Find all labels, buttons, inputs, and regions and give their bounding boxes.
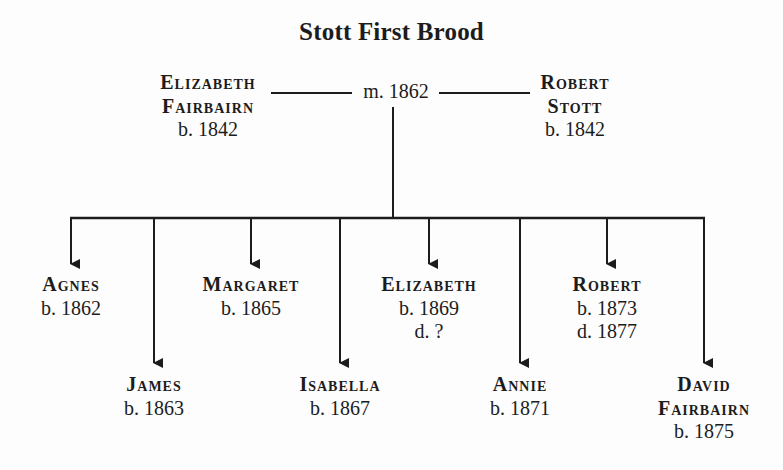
child-date: d. ? [329, 320, 529, 344]
child-node: Robertb. 1873d. 1877 [507, 273, 707, 344]
child-node: Isabellab. 1867 [240, 373, 440, 420]
child-name: Elizabeth [329, 273, 529, 297]
child-name: Annie [420, 373, 620, 397]
child-node: Margaretb. 1865 [151, 273, 351, 320]
child-date: b. 1873 [507, 297, 707, 321]
parent-birth-date: b. 1842 [475, 118, 675, 142]
child-date: b. 1871 [420, 397, 620, 421]
parent-name-line: Elizabeth [108, 71, 308, 95]
child-date: d. 1877 [507, 320, 707, 344]
child-node: Jamesb. 1863 [54, 373, 254, 420]
parent-elizabeth-fairbairn: Elizabeth Fairbairn b. 1842 [108, 71, 308, 142]
child-node: DavidFairbairnb. 1875 [604, 373, 783, 444]
parent-name-line: Fairbairn [108, 95, 308, 119]
child-name: Isabella [240, 373, 440, 397]
child-date: b. 1863 [54, 397, 254, 421]
parent-name-line: Stott [475, 95, 675, 119]
child-name: Agnes [0, 273, 171, 297]
child-date: b. 1867 [240, 397, 440, 421]
child-name: David [604, 373, 783, 397]
child-name: Margaret [151, 273, 351, 297]
child-node: Agnesb. 1862 [0, 273, 171, 320]
child-node: Annieb. 1871 [420, 373, 620, 420]
child-name: Fairbairn [604, 397, 783, 421]
parent-robert-stott: Robert Stott b. 1842 [475, 71, 675, 142]
child-name: James [54, 373, 254, 397]
parent-birth-date: b. 1842 [108, 118, 308, 142]
child-date: b. 1862 [0, 297, 171, 321]
child-date: b. 1869 [329, 297, 529, 321]
marriage-label: m. 1862 [353, 80, 439, 103]
child-name: Robert [507, 273, 707, 297]
child-date: b. 1875 [604, 420, 783, 444]
parent-name-line: Robert [475, 71, 675, 95]
child-node: Elizabethb. 1869d. ? [329, 273, 529, 344]
child-date: b. 1865 [151, 297, 351, 321]
